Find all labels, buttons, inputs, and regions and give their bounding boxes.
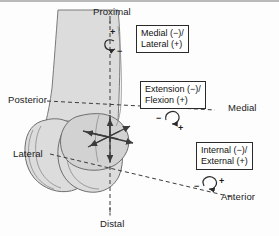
sign-positive-longitudinal: + xyxy=(110,28,115,37)
callout-longitudinal-line1: Medial (−)/ xyxy=(141,28,184,39)
sign-negative-flexion: − xyxy=(156,114,161,123)
callout-flexion-line2: Flexion (+) xyxy=(145,95,201,106)
sign-negative-longitudinal: − xyxy=(117,47,122,56)
callout-longitudinal-rotation: Medial (−)/ Lateral (+) xyxy=(136,25,189,53)
callout-axial-line2: External (+) xyxy=(201,156,248,167)
callout-longitudinal-line2: Lateral (+) xyxy=(141,39,184,50)
axis-label-medial: Medial xyxy=(228,103,257,113)
callout-axial-line1: Internal (−)/ xyxy=(201,145,248,156)
figure-canvas: Proximal Distal Posterior Lateral Medial… xyxy=(0,0,279,236)
axis-label-posterior: Posterior xyxy=(8,95,47,105)
callout-axial-rotation: Internal (−)/ External (+) xyxy=(196,142,253,170)
axis-label-lateral: Lateral xyxy=(13,149,43,159)
axis-label-proximal: Proximal xyxy=(93,7,131,17)
callout-flexion-line1: Extension (−)/ xyxy=(145,84,201,95)
femur-shaft xyxy=(46,10,120,121)
trochlea-articular-surface xyxy=(61,114,129,171)
sign-positive-axial: + xyxy=(219,177,224,186)
sign-negative-axial: − xyxy=(194,182,199,191)
axis-label-distal: Distal xyxy=(100,219,124,229)
axis-label-anterior: Anterior xyxy=(221,192,255,202)
rotation-arrow-axial xyxy=(203,177,216,189)
callout-flexion-extension: Extension (−)/ Flexion (+) xyxy=(140,81,206,109)
sign-positive-flexion: + xyxy=(178,124,183,133)
